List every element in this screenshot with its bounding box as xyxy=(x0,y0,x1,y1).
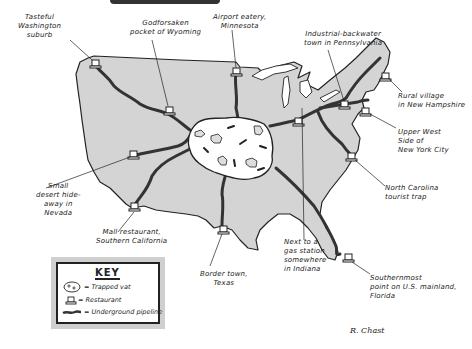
cartoon-map: Tasteful Washington suburb Godforsaken p… xyxy=(0,0,472,349)
restaurant-icon xyxy=(66,297,76,304)
label-new-hampshire: Rural village in New Hampshire xyxy=(398,92,465,110)
restaurant-icon-california xyxy=(129,203,140,211)
restaurant-icon-florida xyxy=(343,254,354,262)
restaurant-icon-minnesota xyxy=(231,68,242,76)
trapped-vat-icon xyxy=(64,282,80,292)
label-minnesota: Airport eatery, Minnesota xyxy=(213,13,267,31)
artist-signature: R. Chast xyxy=(350,326,384,335)
label-new-york: Upper West Side of New York City xyxy=(398,128,449,155)
label-washington: Tasteful Washington suburb xyxy=(18,13,61,40)
key-row-pipeline: = Underground pipeline xyxy=(84,308,162,316)
restaurant-icon-washington xyxy=(90,60,101,68)
label-pennsylvania: Industrial-backwater town in Pennsylvani… xyxy=(304,30,382,48)
pipeline-icon xyxy=(63,312,81,313)
label-indiana: Next to a gas station somewhere in India… xyxy=(284,238,327,274)
label-texas: Border town, Texas xyxy=(200,270,248,288)
label-california: Mall restaurant, Southern California xyxy=(96,228,167,246)
label-north-carolina: North Carolina tourist trap xyxy=(385,184,439,202)
restaurant-icon-north-carolina xyxy=(346,153,357,161)
restaurant-icon-nevada xyxy=(128,151,139,159)
label-nevada: Small desert hide- away in Nevada xyxy=(36,182,81,218)
label-florida: Southernmost point on U.S. mainland, Flo… xyxy=(370,274,457,301)
key-row-restaurant: = Restaurant xyxy=(78,296,121,304)
restaurant-icon-new-york xyxy=(360,108,371,116)
restaurant-icon-wyoming xyxy=(164,107,175,115)
key-title: KEY xyxy=(95,268,120,280)
restaurant-icon-texas xyxy=(218,226,229,234)
label-wyoming: Godforsaken pocket of Wyoming xyxy=(130,19,201,37)
key-row-trapped-vat: = Trapped vat xyxy=(84,283,130,291)
map-key: KEY = Trapped vat = Restaurant = Undergr… xyxy=(56,262,160,324)
restaurant-icon-pennsylvania xyxy=(339,101,350,109)
